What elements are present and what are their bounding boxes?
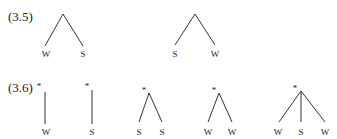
tree-3-6-e-branches (279, 91, 325, 122)
tree-3-6-c-branches (139, 93, 162, 122)
tree-node-leaf: S (172, 50, 177, 59)
tree-node-leaf: S (136, 128, 141, 137)
tree-node-leaf: W (228, 128, 237, 137)
tree-node-leaf: S (159, 128, 164, 137)
ungrammatical-star-marker: * (212, 86, 217, 95)
tree-node-leaf: W (42, 50, 51, 59)
tree-node-leaf: W (321, 128, 330, 137)
example-label-3-5: (3.5) (8, 10, 33, 23)
tree-node-leaf: S (298, 128, 303, 137)
metrical-tree-diagram: (3.5) W S S W (3.6) * W * S * S S * W W … (0, 0, 337, 139)
example-label-3-6: (3.6) (8, 81, 33, 94)
ungrammatical-star-marker: * (37, 82, 42, 91)
ungrammatical-star-marker: * (293, 84, 298, 93)
tree-node-leaf: S (89, 128, 94, 137)
tree-node-leaf: W (42, 128, 51, 137)
tree-node-leaf: W (211, 50, 220, 59)
tree-3-5-b-branches (175, 14, 215, 45)
ungrammatical-star-marker: * (142, 86, 147, 95)
tree-node-leaf: S (80, 50, 85, 59)
tree-node-leaf: W (274, 128, 283, 137)
ungrammatical-star-marker: * (85, 82, 90, 91)
tree-node-leaf: W (204, 128, 213, 137)
tree-3-5-a-branches (45, 14, 83, 46)
tree-branches (0, 0, 337, 139)
tree-3-6-d-branches (208, 93, 232, 122)
